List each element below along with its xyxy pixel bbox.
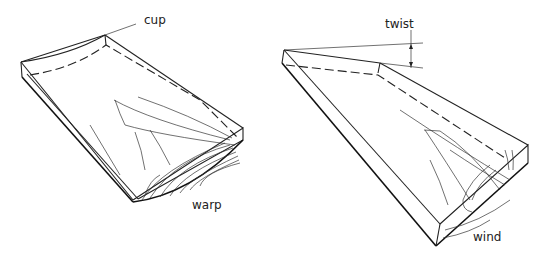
left-board-cup-warp bbox=[21, 24, 243, 202]
cup-reference-edge bbox=[21, 35, 105, 62]
cup-leader-line bbox=[105, 24, 136, 35]
board-edge bbox=[22, 77, 133, 202]
hidden-edge bbox=[286, 65, 505, 158]
arrow-up-icon bbox=[409, 44, 413, 49]
board-corner bbox=[282, 50, 284, 63]
board-edge bbox=[284, 50, 440, 224]
label-cup: cup bbox=[144, 13, 166, 27]
face-grain bbox=[90, 97, 235, 175]
hidden-edge bbox=[30, 45, 238, 138]
board-corner bbox=[21, 62, 22, 77]
wood-defects-diagram bbox=[0, 0, 545, 266]
board-edge bbox=[105, 35, 243, 128]
end-grain bbox=[142, 143, 240, 200]
twist-reference-line bbox=[380, 63, 423, 68]
front-face bbox=[440, 145, 528, 224]
board-corner bbox=[105, 35, 106, 45]
board-edge bbox=[282, 63, 436, 246]
board-edge bbox=[27, 74, 138, 199]
label-wind: wind bbox=[473, 230, 501, 244]
twist-reference-line bbox=[284, 43, 423, 50]
board-edge bbox=[284, 50, 380, 63]
label-warp: warp bbox=[192, 198, 222, 212]
right-board-twist-wind bbox=[282, 30, 528, 246]
board-edge bbox=[380, 63, 528, 145]
label-twist: twist bbox=[385, 17, 414, 31]
board-corner bbox=[378, 63, 380, 73]
